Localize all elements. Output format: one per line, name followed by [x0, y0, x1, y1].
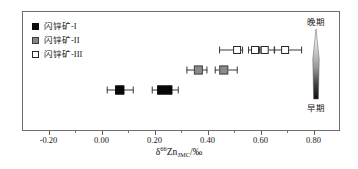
stage-late-label: 晚期 — [296, 17, 336, 27]
x-tick-label: 0.80 — [306, 135, 321, 146]
data-marker — [220, 66, 229, 75]
x-tick-minor — [234, 131, 235, 133]
data-marker — [116, 86, 125, 95]
data-marker — [233, 46, 241, 54]
data-marker — [281, 46, 289, 54]
x-tick-minor — [75, 131, 76, 133]
data-point[interactable] — [186, 65, 207, 75]
x-tick-label: 0.60 — [253, 135, 268, 146]
data-point[interactable] — [219, 45, 243, 55]
data-layer — [22, 11, 340, 131]
data-point[interactable] — [260, 45, 275, 55]
error-bar-cap-right — [132, 87, 133, 94]
figure-container: 闪锌矿-I闪锌矿-II闪锌矿-III -0.200.000.200.400.60… — [0, 0, 358, 169]
data-point[interactable] — [248, 45, 260, 55]
error-bar-cap-left — [274, 47, 275, 54]
x-tick-minor — [128, 131, 129, 133]
error-bar-cap-right — [236, 67, 237, 74]
error-bar-cap-left — [215, 67, 216, 74]
x-tick-label: -0.20 — [40, 135, 58, 146]
data-point[interactable] — [215, 65, 238, 75]
stage-gradient-arrow-icon — [309, 29, 323, 101]
stage-indicator: 晚期 早期 — [296, 17, 336, 113]
data-marker — [261, 46, 269, 54]
data-point[interactable] — [152, 85, 179, 95]
error-bar-cap-right — [206, 67, 207, 74]
error-bar-cap-left — [248, 47, 249, 54]
error-bar-cap-right — [242, 47, 243, 54]
data-point[interactable] — [107, 85, 134, 95]
error-bar-cap-right — [177, 87, 178, 94]
error-bar-cap-left — [152, 87, 153, 94]
x-axis-title: δ66ZnJMC/‰ — [0, 146, 358, 159]
data-marker — [158, 86, 173, 95]
x-tick-minor — [287, 131, 288, 133]
error-bar-cap-left — [186, 67, 187, 74]
error-bar-cap-left — [219, 47, 220, 54]
stage-early-label: 早期 — [296, 103, 336, 113]
data-marker — [251, 46, 259, 54]
axis-title-element: Zn — [167, 147, 178, 157]
error-bar-cap-left — [107, 87, 108, 94]
axis-title-subscript: JMC — [177, 151, 190, 158]
x-tick-label: 0.40 — [200, 135, 215, 146]
x-tick-minor — [181, 131, 182, 133]
x-tick-label: 0.00 — [94, 135, 109, 146]
axis-title-unit: /‰ — [190, 147, 202, 157]
data-marker — [194, 66, 203, 75]
